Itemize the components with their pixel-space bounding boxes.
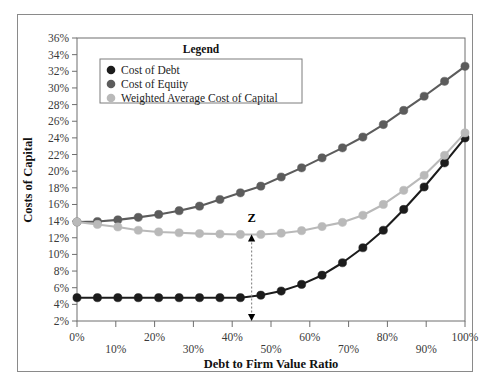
- data-point: [257, 291, 265, 299]
- data-point: [359, 244, 367, 252]
- data-point: [420, 171, 428, 179]
- y-tick-label: 2%: [54, 315, 70, 327]
- legend-marker: [107, 94, 116, 103]
- data-point: [379, 120, 387, 128]
- y-tick-label: 4%: [54, 298, 70, 310]
- data-point: [236, 189, 244, 197]
- x-tick-label: 70%: [338, 343, 360, 355]
- x-tick-label: 50%: [260, 343, 282, 355]
- data-point: [277, 173, 285, 181]
- x-tick-label: 0%: [69, 331, 85, 343]
- y-tick-label: 6%: [54, 282, 70, 294]
- annotation-arrowhead-down: [248, 314, 255, 321]
- data-point: [400, 205, 408, 213]
- data-point: [440, 151, 448, 159]
- y-tick-label: 8%: [54, 265, 70, 277]
- x-axis-tick-labels: 0%10%20%30%40%50%60%70%80%90%100%: [69, 331, 479, 355]
- y-tick-label: 14%: [48, 215, 70, 227]
- data-point: [359, 133, 367, 141]
- legend-entry-label: Cost of Equity: [121, 78, 188, 91]
- figure-container: 2%4%6%8%10%12%14%16%18%20%22%24%26%28%30…: [0, 0, 491, 388]
- data-point: [461, 129, 469, 137]
- x-tick-label: 90%: [416, 343, 438, 355]
- data-point: [114, 294, 122, 302]
- legend-entry-label: Weighted Average Cost of Capital: [121, 92, 278, 105]
- data-point: [93, 220, 101, 228]
- data-point: [338, 259, 346, 267]
- y-tick-label: 16%: [48, 198, 70, 210]
- data-point: [134, 294, 142, 302]
- data-point: [420, 92, 428, 100]
- data-point: [298, 164, 306, 172]
- cost-of-capital-line-chart: 2%4%6%8%10%12%14%16%18%20%22%24%26%28%30…: [0, 0, 491, 388]
- data-point: [420, 183, 428, 191]
- y-tick-label: 22%: [48, 149, 70, 161]
- x-tick-label: 100%: [452, 331, 479, 343]
- data-point: [338, 218, 346, 226]
- annotation-label-z: Z: [247, 211, 255, 225]
- data-point: [338, 144, 346, 152]
- data-point: [155, 228, 163, 236]
- x-tick-label: 30%: [183, 343, 205, 355]
- data-point: [318, 222, 326, 230]
- chart-annotations: Z: [247, 211, 255, 321]
- data-point: [134, 213, 142, 221]
- data-point: [155, 294, 163, 302]
- y-axis-tick-labels: 2%4%6%8%10%12%14%16%18%20%22%24%26%28%30…: [48, 32, 70, 327]
- chart-legend: LegendCost of DebtCost of EquityWeighted…: [100, 43, 302, 105]
- legend-marker: [107, 80, 116, 89]
- series-weighted-average-cost-of-capital: [73, 129, 469, 239]
- data-point: [440, 77, 448, 85]
- x-tick-label: 40%: [222, 331, 244, 343]
- data-point: [298, 227, 306, 235]
- data-point: [216, 230, 224, 238]
- data-point: [359, 211, 367, 219]
- data-point: [277, 229, 285, 237]
- data-point: [73, 294, 81, 302]
- y-tick-label: 32%: [48, 65, 70, 77]
- annotation-arrowhead-up: [248, 234, 255, 241]
- y-tick-label: 30%: [48, 82, 70, 94]
- legend-marker: [107, 66, 116, 75]
- legend-entry-label: Cost of Debt: [121, 64, 181, 76]
- data-point: [134, 226, 142, 234]
- data-point: [461, 62, 469, 70]
- data-point: [400, 106, 408, 114]
- data-point: [257, 230, 265, 238]
- legend-title: Legend: [183, 43, 220, 56]
- y-tick-label: 10%: [48, 248, 70, 260]
- data-point: [318, 271, 326, 279]
- data-point: [175, 207, 183, 215]
- data-point: [236, 294, 244, 302]
- data-point: [114, 223, 122, 231]
- y-tick-label: 12%: [48, 232, 70, 244]
- data-point: [400, 186, 408, 194]
- x-tick-label: 80%: [377, 331, 399, 343]
- data-point: [379, 226, 387, 234]
- y-tick-label: 20%: [48, 165, 70, 177]
- y-tick-label: 18%: [48, 182, 70, 194]
- data-point: [93, 294, 101, 302]
- data-point: [175, 229, 183, 237]
- y-tick-label: 36%: [48, 32, 70, 44]
- x-tick-label: 20%: [144, 331, 166, 343]
- data-point: [277, 287, 285, 295]
- data-point: [216, 294, 224, 302]
- data-point: [318, 154, 326, 162]
- data-point: [440, 159, 448, 167]
- data-point: [155, 210, 163, 218]
- y-axis-title: Costs of Capital: [21, 137, 35, 223]
- data-point: [195, 230, 203, 238]
- y-tick-label: 26%: [48, 115, 70, 127]
- data-point: [195, 294, 203, 302]
- data-point: [73, 218, 81, 226]
- y-tick-label: 28%: [48, 99, 70, 111]
- x-tick-label: 10%: [105, 343, 127, 355]
- x-axis-title: Debt to Firm Value Ratio: [204, 357, 339, 371]
- data-point: [216, 195, 224, 203]
- data-point: [236, 230, 244, 238]
- data-point: [379, 200, 387, 208]
- data-point: [298, 280, 306, 288]
- data-point: [257, 182, 265, 190]
- y-tick-label: 34%: [48, 49, 70, 61]
